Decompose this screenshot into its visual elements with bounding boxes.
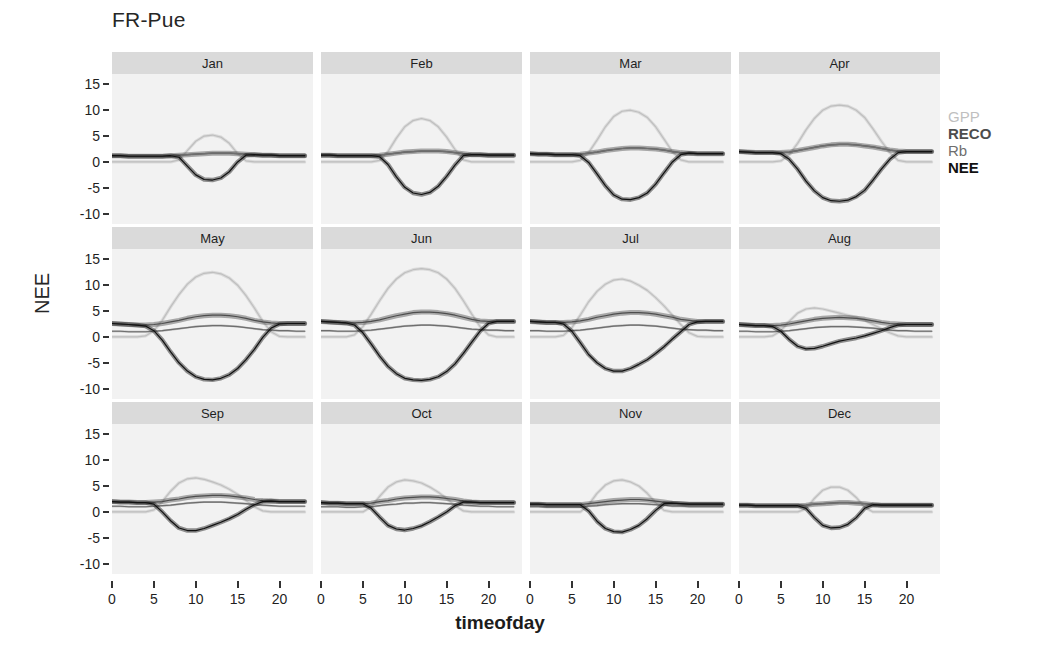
x-tick-mark <box>613 581 615 588</box>
y-axis-ticks: 151050-5-10 <box>38 74 100 224</box>
panel-strip: Jul <box>530 227 731 249</box>
panel-plot-area <box>321 424 522 574</box>
panel-strip: Jan <box>112 52 313 74</box>
series-line-nee <box>530 153 723 200</box>
x-tick-label: 20 <box>481 591 497 607</box>
panel-strip-label: Aug <box>739 231 940 246</box>
y-tick-label: 0 <box>40 504 100 520</box>
y-tick-label: -10 <box>40 556 100 572</box>
y-axis-ticks: 151050-5-10 <box>38 249 100 399</box>
facet-panel-jun: Jun <box>321 227 522 399</box>
panel-plot-area <box>739 249 940 399</box>
page-title: FR-Pue <box>112 8 186 32</box>
facet-panel-apr: Apr <box>739 52 940 224</box>
panel-strip: Oct <box>321 402 522 424</box>
y-axis-ticks: 151050-5-10 <box>38 424 100 574</box>
panel-strip-label: Mar <box>530 56 731 71</box>
x-tick-label: 20 <box>899 591 915 607</box>
x-tick-mark <box>404 581 406 588</box>
y-tick-label: 15 <box>40 251 100 267</box>
y-tick-label: 5 <box>40 303 100 319</box>
panel-plot-area <box>112 74 313 224</box>
y-tick-label: -10 <box>40 381 100 397</box>
x-axis-label-text: timeofday <box>455 612 545 634</box>
panel-strip-label: Apr <box>739 56 940 71</box>
panel-plot-area <box>530 249 731 399</box>
series-line-nee <box>739 152 932 202</box>
y-tick-label: -10 <box>40 206 100 222</box>
x-tick-mark <box>571 581 573 588</box>
x-tick-label: 0 <box>317 591 325 607</box>
facet-panel-may: May <box>112 227 313 399</box>
panel-strip-label: Sep <box>112 406 313 421</box>
panel-strip: Feb <box>321 52 522 74</box>
x-tick-label: 20 <box>690 591 706 607</box>
legend-item-reco: RECO <box>948 125 1048 142</box>
y-tick-label: -5 <box>40 355 100 371</box>
x-tick-mark <box>237 581 239 588</box>
panel-strip: Mar <box>530 52 731 74</box>
x-tick-label: 5 <box>568 591 576 607</box>
x-tick-label: 5 <box>359 591 367 607</box>
x-tick-mark <box>362 581 364 588</box>
panel-strip-label: Jan <box>112 56 313 71</box>
panel-strip: May <box>112 227 313 249</box>
panel-strip: Jun <box>321 227 522 249</box>
panel-strip: Nov <box>530 402 731 424</box>
x-axis-ticks: 05101520 <box>739 581 940 609</box>
y-tick-label: -5 <box>40 530 100 546</box>
y-tick-label: 0 <box>40 329 100 345</box>
panel-plot-area <box>321 74 522 224</box>
x-tick-label: 15 <box>857 591 873 607</box>
x-axis-label: timeofday <box>0 612 1058 634</box>
panel-row: JanFebMarApr <box>112 52 940 227</box>
x-tick-label: 10 <box>606 591 622 607</box>
x-tick-mark <box>738 581 740 588</box>
panel-row: SepOctNovDec <box>112 402 940 577</box>
panel-plot-area <box>739 424 940 574</box>
x-tick-mark <box>195 581 197 588</box>
x-tick-mark <box>488 581 490 588</box>
facet-panel-jan: Jan <box>112 52 313 224</box>
series-band-nee <box>530 153 723 200</box>
panel-strip-label: May <box>112 231 313 246</box>
panel-row: MayJunJulAug <box>112 227 940 402</box>
x-tick-mark <box>655 581 657 588</box>
x-tick-mark <box>906 581 908 588</box>
x-tick-mark <box>780 581 782 588</box>
x-tick-label: 0 <box>526 591 534 607</box>
facet-panel-jul: Jul <box>530 227 731 399</box>
x-tick-label: 0 <box>108 591 116 607</box>
y-tick-label: 0 <box>40 154 100 170</box>
panel-plot-area <box>739 74 940 224</box>
x-tick-label: 5 <box>150 591 158 607</box>
x-tick-label: 10 <box>188 591 204 607</box>
panel-plot-area <box>112 249 313 399</box>
panel-strip: Dec <box>739 402 940 424</box>
facet-panel-dec: Dec <box>739 402 940 574</box>
x-tick-mark <box>320 581 322 588</box>
panel-strip-label: Nov <box>530 406 731 421</box>
y-tick-label: 5 <box>40 478 100 494</box>
series-band-nee <box>530 321 723 371</box>
facet-panel-oct: Oct <box>321 402 522 574</box>
facet-panel-sep: Sep <box>112 402 313 574</box>
panel-strip: Apr <box>739 52 940 74</box>
panel-plot-area <box>530 74 731 224</box>
x-tick-mark <box>279 581 281 588</box>
x-tick-label: 15 <box>648 591 664 607</box>
x-tick-mark <box>697 581 699 588</box>
x-tick-mark <box>822 581 824 588</box>
series-band-nee <box>739 152 932 202</box>
legend-item-rb: Rb <box>948 142 1048 159</box>
series-line-gpp <box>530 279 723 337</box>
y-tick-label: 10 <box>40 452 100 468</box>
x-tick-mark <box>111 581 113 588</box>
y-tick-label: 10 <box>40 102 100 118</box>
facet-panel-mar: Mar <box>530 52 731 224</box>
y-tick-label: 15 <box>40 76 100 92</box>
panel-plot-area <box>112 424 313 574</box>
x-tick-mark <box>153 581 155 588</box>
x-tick-label: 20 <box>272 591 288 607</box>
panel-strip-label: Feb <box>321 56 522 71</box>
